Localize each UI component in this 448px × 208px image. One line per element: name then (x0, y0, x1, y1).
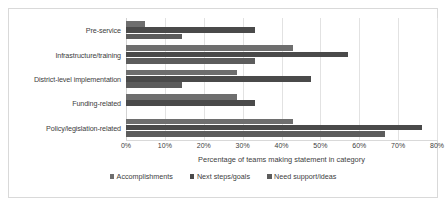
bar (126, 82, 182, 88)
chart-legend: AccomplishmentsNext steps/goalsNeed supp… (9, 172, 437, 181)
category-label: District-level implementation (34, 74, 121, 83)
legend-swatch-icon (267, 174, 272, 179)
bar (126, 21, 145, 27)
bar (126, 58, 255, 64)
bar (126, 27, 255, 33)
x-tick-label: 20% (197, 142, 211, 149)
bar (126, 34, 182, 40)
category-group: District-level implementation (126, 67, 437, 91)
bar (126, 45, 293, 51)
bar (126, 100, 255, 106)
bar (126, 70, 237, 76)
legend-item: Need support/ideas (267, 172, 336, 181)
plot-area: Pre-serviceInfrastructure/trainingDistri… (126, 18, 437, 140)
x-tick-label: 10% (158, 142, 172, 149)
x-tick-label: 70% (391, 142, 405, 149)
gridline-80 (437, 18, 438, 140)
x-tick-label: 40% (274, 142, 288, 149)
category-group: Pre-service (126, 18, 437, 42)
x-axis-title: Percentage of teams making statement in … (126, 155, 437, 164)
bar (126, 125, 422, 131)
bar (126, 76, 311, 82)
bar (126, 119, 293, 125)
category-group: Funding-related (126, 91, 437, 115)
bar (126, 52, 348, 58)
category-group: Infrastructure/training (126, 42, 437, 66)
bar (126, 131, 385, 137)
category-label: Pre-service (86, 26, 121, 35)
category-label: Funding-related (72, 99, 121, 108)
x-tick-label: 60% (352, 142, 366, 149)
legend-item: Next steps/goals (190, 172, 250, 181)
legend-item: Accomplishments (110, 172, 173, 181)
category-label: Infrastructure/training (55, 50, 121, 59)
category-group: Policy/legislation-related (126, 116, 437, 140)
chart-container: Pre-serviceInfrastructure/trainingDistri… (8, 8, 438, 198)
bar (126, 94, 237, 100)
x-tick-label: 30% (236, 142, 250, 149)
legend-label: Accomplishments (117, 172, 173, 181)
x-tick-label: 80% (430, 142, 444, 149)
x-axis-tick-labels: 0%10%20%30%40%50%60%70%80% (126, 142, 437, 154)
x-tick-label: 50% (313, 142, 327, 149)
x-axis-line (126, 140, 437, 141)
legend-label: Need support/ideas (274, 172, 336, 181)
x-tick-label: 0% (121, 142, 131, 149)
legend-label: Next steps/goals (197, 172, 250, 181)
legend-swatch-icon (190, 174, 195, 179)
category-label: Policy/legislation-related (46, 123, 121, 132)
legend-swatch-icon (110, 174, 115, 179)
